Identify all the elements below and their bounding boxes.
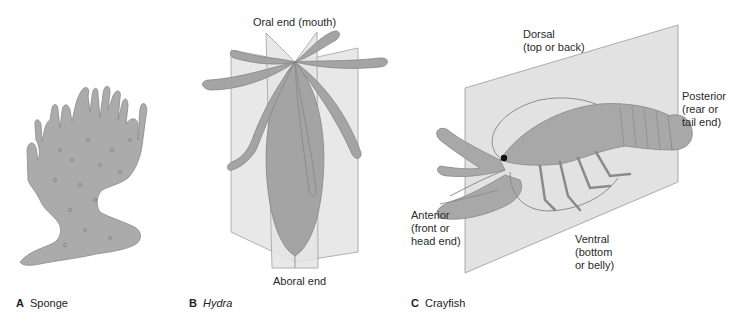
hydra-illustration	[203, 31, 388, 256]
caption-name: Hydra	[203, 297, 232, 309]
crayfish-eye-icon	[501, 155, 507, 161]
caption-name: Crayfish	[425, 297, 465, 309]
caption-hydra: BHydra	[189, 297, 232, 309]
posterior-label: Posterior (rear or tail end)	[682, 90, 726, 129]
sponge-illustration	[20, 86, 147, 265]
oral-end-label: Oral end (mouth)	[253, 16, 336, 29]
caption-letter: C	[411, 297, 419, 309]
caption-letter: A	[16, 297, 24, 309]
caption-name: Sponge	[30, 297, 68, 309]
caption-letter: B	[189, 297, 197, 309]
dorsal-label: Dorsal (top or back)	[523, 28, 585, 54]
aboral-end-label: Aboral end	[273, 275, 326, 288]
caption-sponge: ASponge	[16, 297, 68, 309]
anterior-label: Anterior (front or head end)	[411, 209, 461, 248]
diagram-canvas	[0, 0, 740, 315]
ventral-label: Ventral (bottom or belly)	[575, 233, 614, 272]
caption-crayfish: CCrayfish	[411, 297, 465, 309]
